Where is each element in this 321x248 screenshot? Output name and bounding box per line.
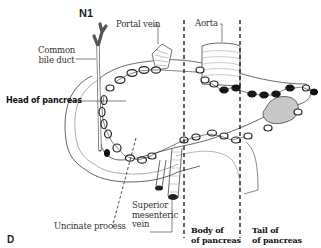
pancreas-lymph-node-diagram: N1 Common bile duct Portal vein Aorta He… <box>0 0 321 248</box>
leader-aorta <box>220 24 222 42</box>
figure-title: N1 <box>79 7 93 19</box>
superior-mesenteric-vein-vessel <box>155 148 182 200</box>
label-head-of-pancreas: Head of pancreas <box>6 96 82 106</box>
label-common-bile-duct: Common bile duct <box>38 46 75 65</box>
pancreas-lower-curve <box>176 151 240 190</box>
portal-vein-vessel <box>152 44 172 70</box>
label-portal-vein: Portal vein <box>116 20 160 30</box>
label-uncinate-process: Uncinate process <box>54 222 126 232</box>
label-body-of-pancreas: Body of of pancreas <box>191 226 241 245</box>
duodenum-outline <box>65 76 200 182</box>
tumor-mass <box>263 96 298 123</box>
panel-letter: D <box>7 234 14 245</box>
label-aorta: Aorta <box>195 19 218 29</box>
label-tail-of-pancreas: Tail of of pancreas <box>252 226 302 245</box>
label-superior-mesenteric-vein: Superior mesenteric vein <box>132 201 178 230</box>
pancreas-tail-lower <box>244 142 258 194</box>
